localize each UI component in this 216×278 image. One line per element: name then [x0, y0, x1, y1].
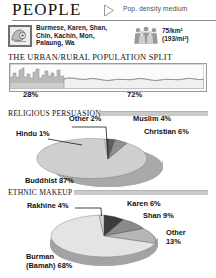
religion-pie-chart: Other 2% Hindu 1% Muslim 4% Christian 6%… — [0, 119, 216, 187]
density-metric: 75/km² — [162, 27, 189, 35]
ethnic-label-burman: Burman (Bamah) 68% — [26, 253, 72, 270]
religion-label-other: Other 2% — [69, 115, 101, 124]
ethnic-groups-icon — [8, 25, 32, 47]
ethnic-heading: ETHNIC MAKEUP — [8, 188, 72, 197]
religion-label-muslim: Muslim 4% — [133, 115, 171, 124]
ethnic-label-burman-line2: (Bamah) 68% — [26, 262, 72, 271]
page-title: PEOPLE — [12, 1, 82, 19]
religion-label-hindu: Hindu 1% — [16, 130, 50, 139]
religion-label-buddhist: Buddhist 87% — [25, 177, 74, 186]
ethnic-label-rakhine: Rakhine 4% — [27, 202, 69, 211]
ethnic-label-other: Other 13% — [166, 229, 186, 246]
people-infographic: PEOPLE Pop. density medium Burmese, Kare… — [0, 0, 216, 278]
religion-label-christian: Christian 6% — [144, 128, 189, 137]
ethnic-section-header: ETHNIC MAKEUP — [8, 188, 208, 198]
urban-rural-panel — [9, 63, 207, 92]
header: PEOPLE Pop. density medium — [6, 1, 210, 23]
ethnic-label-shan: Shan 9% — [143, 212, 174, 221]
triangle-right-icon — [103, 4, 115, 17]
religion-section-header: RELIGIOUS PERSUASION — [8, 109, 208, 119]
header-divider — [12, 20, 216, 21]
density-imperial: (193/mi²) — [162, 35, 189, 43]
ethnic-pie-chart: Rakhine 4% Karen 6% Shan 9% Other 13% Bu… — [0, 198, 216, 278]
rural-percent-label: 72% — [127, 90, 142, 99]
ethnic-header-bar — [74, 190, 208, 195]
facts-row: Burmese, Karen, Shan, Chin, Kachin, Mon,… — [6, 24, 210, 50]
urban-rural-illustration — [10, 64, 204, 89]
urban-percent-label: 28% — [23, 90, 38, 99]
pop-density-subtitle: Pop. density medium — [123, 5, 187, 12]
ethnic-label-other-line2: 13% — [166, 238, 186, 247]
population-density-icon — [134, 26, 158, 45]
urban-rural-heading: THE URBAN/RURAL POPULATION SPLIT — [8, 53, 172, 62]
population-density-text: 75/km² (193/mi²) — [162, 27, 189, 43]
ethnic-groups-text: Burmese, Karen, Shan, Chin, Kachin, Mon,… — [36, 24, 122, 47]
ethnic-label-karen: Karen 6% — [127, 200, 161, 209]
urban-rural-percentages: 28% 72% — [9, 90, 205, 101]
